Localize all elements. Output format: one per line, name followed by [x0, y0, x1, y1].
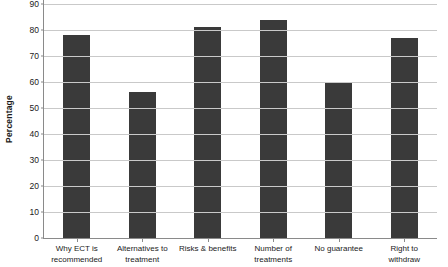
gridline-10 — [44, 212, 437, 213]
bar — [63, 35, 90, 238]
gridline-20 — [44, 186, 437, 187]
y-tick-label-0: 0 — [34, 233, 44, 243]
bar — [260, 20, 287, 238]
gridline-90 — [44, 4, 437, 5]
x-tick-mark — [339, 239, 340, 242]
bar-chart: Percentage 0102030405060708090 Why ECT i… — [0, 0, 448, 267]
gridline-50 — [44, 108, 437, 109]
gridline-70 — [44, 56, 437, 57]
gridline-60 — [44, 82, 437, 83]
gridline-0 — [44, 238, 437, 239]
y-tick-label-50: 50 — [30, 103, 44, 113]
x-tick-label: Right towithdraw — [366, 244, 442, 265]
gridline-80 — [44, 30, 437, 31]
bar — [194, 27, 221, 238]
y-tick-label-30: 30 — [30, 155, 44, 165]
x-tick-mark — [142, 239, 143, 242]
x-tick-label-line: treatments — [235, 255, 311, 266]
x-tick-label-line: withdraw — [366, 255, 442, 266]
y-tick-label-70: 70 — [30, 51, 44, 61]
bar — [129, 92, 156, 238]
x-tick-mark — [404, 239, 405, 242]
x-tick-mark — [208, 239, 209, 242]
x-tick-mark — [273, 239, 274, 242]
bars-layer — [44, 4, 437, 238]
gridline-40 — [44, 134, 437, 135]
value-box: 0102030405060708090 — [44, 4, 437, 238]
x-tick-label-line: treatment — [104, 255, 180, 266]
bar — [391, 38, 418, 238]
x-tick-label-line: Right to — [366, 244, 442, 255]
gridline-30 — [44, 160, 437, 161]
y-axis-title-text: Percentage — [4, 95, 14, 143]
y-tick-label-40: 40 — [30, 129, 44, 139]
y-tick-label-60: 60 — [30, 77, 44, 87]
y-tick-label-20: 20 — [30, 181, 44, 191]
y-tick-label-80: 80 — [30, 25, 44, 35]
y-axis-title: Percentage — [0, 0, 18, 238]
y-tick-label-10: 10 — [30, 207, 44, 217]
y-tick-label-90: 90 — [30, 0, 44, 9]
x-tick-mark — [77, 239, 78, 242]
plot-area: 0102030405060708090 — [44, 0, 437, 238]
